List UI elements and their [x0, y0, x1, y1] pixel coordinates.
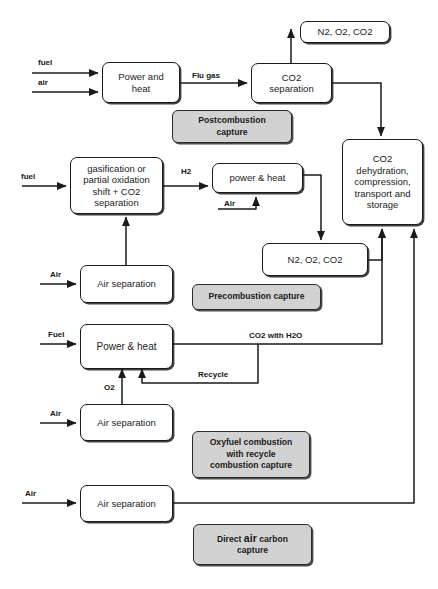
legend-oxyfuel-combustion-capture: Oxyfuel combustion with recycle combusti…	[192, 431, 310, 478]
edge-label-air-precombustion: Air	[224, 199, 235, 208]
node-vent-mid: N2, O2, CO2	[262, 243, 368, 276]
node-vent-mid-label: N2, O2, CO2	[288, 254, 343, 266]
carbon-capture-flow-diagram: Power and heat CO2 separation N2, O2, CO…	[0, 0, 438, 589]
edge-label-air-direct-air: Air	[25, 489, 36, 498]
node-gasification: gasification or partial oxidation shift …	[70, 157, 163, 214]
edge-label-flu-gas: Flu gas	[192, 71, 220, 80]
edge-label-o2: O2	[104, 383, 115, 392]
node-air-separation-direct-air-label: Air separation	[97, 498, 156, 510]
edge-label-fuel-precombustion: fuel	[21, 172, 35, 181]
legend-direct-air-part1: Direct	[217, 534, 244, 544]
legend-postcombustion-capture-label: Postcombustion capture	[198, 115, 265, 138]
legend-direct-air-carbon-capture: Direct air carbon capture	[193, 524, 312, 565]
node-air-separation-direct-air: Air separation	[80, 485, 173, 522]
legend-postcombustion-capture: Postcombustion capture	[172, 110, 292, 143]
edge-label-co2-with-h2o: CO2 with H2O	[249, 331, 302, 340]
legend-direct-air-emphasis: air	[244, 532, 257, 544]
node-power-heat-oxyfuel: Power & heat	[80, 324, 173, 369]
node-power-and-heat: Power and heat	[102, 62, 180, 103]
legend-oxyfuel-combustion-capture-label: Oxyfuel combustion with recycle combusti…	[210, 437, 293, 472]
node-power-and-heat-label: Power and heat	[118, 71, 163, 94]
node-air-separation-oxyfuel-label: Air separation	[97, 417, 156, 429]
node-power-heat-oxyfuel-label: Power & heat	[96, 341, 156, 353]
edge-label-fuel-top: fuel	[38, 58, 52, 67]
edge-label-recycle: Recycle	[198, 370, 228, 379]
node-air-separation-precombustion-label: Air separation	[97, 278, 156, 290]
node-air-separation-oxyfuel: Air separation	[80, 404, 173, 441]
legend-direct-air-part3: carbon	[257, 534, 288, 544]
edge-label-fuel-oxyfuel: Fuel	[48, 330, 64, 339]
legend-precombustion-capture-label: Precombustion capture	[209, 291, 305, 303]
legend-precombustion-capture: Precombustion capture	[192, 284, 321, 310]
node-co2-dehydration-compression-transport-storage: CO2 dehydration, compression, transport …	[342, 139, 423, 225]
node-air-separation-precombustion: Air separation	[80, 265, 173, 303]
node-co2-separation: CO2 separation	[251, 63, 332, 103]
node-vent-top-label: N2, O2, CO2	[318, 26, 373, 38]
edge-label-air-top: air	[38, 78, 48, 87]
edge-vent-mid-to-dehydration	[368, 229, 382, 260]
legend-direct-air-line2: capture	[237, 545, 268, 555]
edge-label-air-separation-precombustion: Air	[50, 270, 61, 279]
edge-label-air-oxyfuel: Air	[50, 409, 61, 418]
node-vent-top: N2, O2, CO2	[300, 21, 390, 43]
node-gasification-label: gasification or partial oxidation shift …	[83, 163, 150, 209]
legend-direct-air-carbon-capture-label: Direct air carbon capture	[217, 533, 288, 557]
node-power-heat-precombustion: power & heat	[212, 163, 303, 193]
edge-power-heat-pre-to-vent-mid	[303, 175, 321, 240]
node-co2-separation-label: CO2 separation	[269, 72, 313, 95]
edge-label-h2: H2	[181, 167, 191, 176]
node-co2-dehydration-label: CO2 dehydration, compression, transport …	[354, 153, 411, 211]
node-power-heat-precombustion-label: power & heat	[230, 172, 286, 184]
edge-co2sep-to-dehydration	[332, 83, 381, 136]
